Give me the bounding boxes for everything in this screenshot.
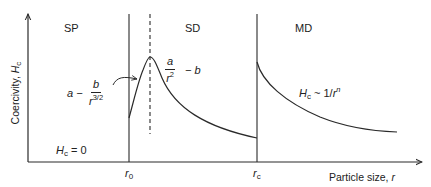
tick-label-rc: rc xyxy=(253,168,261,181)
region-label-md: MD xyxy=(295,23,312,34)
md-equation: Hc ~ 1/rn xyxy=(299,86,341,101)
y-axis-label: Coercivity, Hc xyxy=(9,43,23,143)
tick-label-r0: r0 xyxy=(125,168,133,181)
region-label-sp: SP xyxy=(64,23,79,34)
x-axis-label: Particle size, r xyxy=(329,172,395,183)
rising-equation-fraction: b r3/2 xyxy=(89,79,103,107)
pointer-arrow xyxy=(113,77,137,85)
region-label-sd: SD xyxy=(185,23,200,34)
rising-equation-prefix: a − xyxy=(67,88,83,99)
peak-equation-fraction: a r2 xyxy=(165,56,175,84)
sp-equation: Hc = 0 xyxy=(56,145,87,158)
rising-curve xyxy=(129,57,150,118)
peak-equation-suffix: − b xyxy=(185,65,201,76)
